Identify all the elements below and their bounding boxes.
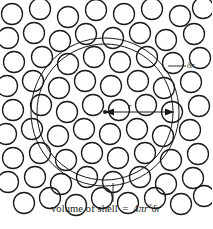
particle-circle — [0, 76, 18, 97]
particle-circle — [24, 23, 45, 44]
figure-canvas — [0, 0, 212, 229]
particle-circle — [58, 54, 79, 75]
particle-circle — [4, 52, 25, 73]
particle-circle — [188, 144, 209, 165]
particle-circle — [31, 95, 52, 116]
radius-label: r — [128, 101, 132, 111]
figure-caption: volume of shell = 4πr2δr — [0, 203, 212, 214]
particle-circle — [30, 0, 51, 20]
radius-double-arrow — [105, 109, 174, 116]
particle-circle — [58, 7, 79, 28]
particle-circle — [156, 30, 177, 51]
particle-circle — [0, 28, 19, 49]
particle-circle — [170, 6, 191, 27]
particle-circle — [83, 95, 104, 116]
particle-circle — [82, 143, 103, 164]
particle-circle — [2, 4, 23, 25]
caption-equals: = — [121, 203, 131, 214]
particle-circle — [3, 100, 24, 121]
particle-circle — [161, 150, 182, 171]
particle-circle — [76, 24, 97, 45]
particle-circle — [3, 148, 24, 169]
particle-circle — [84, 47, 105, 68]
particle-circle — [128, 71, 149, 92]
particle-circle — [32, 47, 53, 68]
particle-circle — [184, 24, 205, 45]
particle-circle — [23, 71, 44, 92]
particle-circle — [180, 120, 201, 141]
particle-circle — [153, 126, 174, 147]
particle-cluster — [0, 0, 212, 216]
particle-circle — [142, 0, 163, 20]
particle-circle — [130, 23, 151, 44]
particle-circle — [156, 174, 177, 195]
particle-circle — [48, 126, 69, 147]
particle-circle — [110, 52, 131, 73]
caption-prefix: volume of shell — [51, 203, 118, 214]
particle-circle — [183, 168, 204, 189]
caption-thickness: δr — [152, 203, 161, 214]
particle-circle — [0, 172, 19, 193]
particle-circle — [30, 143, 51, 164]
particle-circle — [74, 119, 95, 140]
shell-thickness-label: δr — [187, 60, 194, 70]
particle-circle — [108, 148, 129, 169]
particle-circle — [193, 0, 213, 19]
particle-circle — [25, 167, 46, 188]
particle-circle — [77, 167, 98, 188]
particle-circle — [0, 124, 17, 145]
particle-circle — [181, 72, 202, 93]
particle-circle — [114, 4, 135, 25]
particle-circle — [127, 119, 148, 140]
particle-circle — [49, 78, 70, 99]
particle-circle — [57, 102, 78, 123]
particle-circle — [86, 0, 107, 21]
particle-circle — [75, 71, 96, 92]
shell-volume-figure: δr r volume of shell = 4πr2δr — [0, 0, 212, 229]
particle-circle — [189, 96, 210, 117]
particle-circle — [101, 76, 122, 97]
particle-circle — [100, 124, 121, 145]
